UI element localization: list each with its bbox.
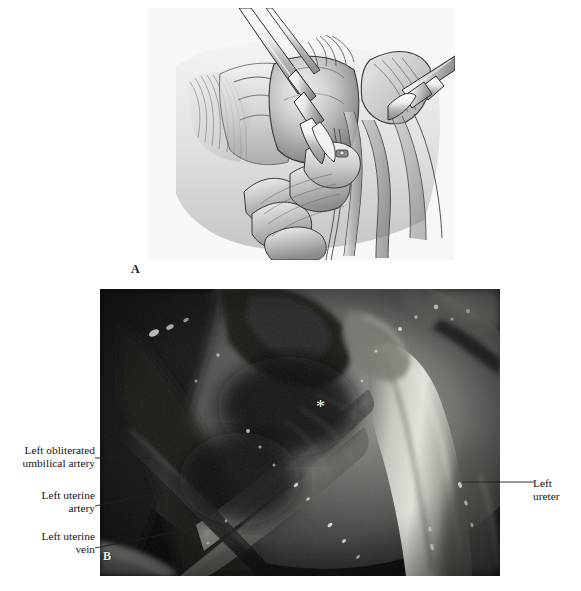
asterisk-marker: * — [316, 398, 325, 416]
panel-a-illustration — [148, 8, 455, 260]
panel-a-label: A — [131, 262, 140, 277]
panel-b-label: B — [103, 549, 111, 564]
label-left-uterine-artery: Left uterine artery — [2, 489, 95, 516]
label-line-2: vein — [2, 543, 95, 556]
label-left-uterine-vein: Left uterine vein — [2, 530, 95, 557]
surgical-line-drawing — [148, 8, 455, 260]
label-line-1: Left uterine — [2, 489, 95, 502]
label-line-2: umbilical artery — [2, 457, 95, 470]
label-left-ureter: Left ureter — [533, 477, 581, 504]
label-left-obliterated-umbilical-artery: Left obliterated umbilical artery — [2, 444, 95, 471]
leader-line-ureter — [462, 476, 534, 488]
leader-line-umbilical-artery — [95, 450, 151, 466]
label-line-2: artery — [2, 502, 95, 515]
label-line-1: Left uterine — [2, 530, 95, 543]
label-line-1: Left ureter — [533, 477, 581, 504]
figure-page: A — [0, 0, 581, 591]
label-line-1: Left obliterated — [2, 444, 95, 457]
leader-line-uterine-artery — [95, 488, 173, 512]
